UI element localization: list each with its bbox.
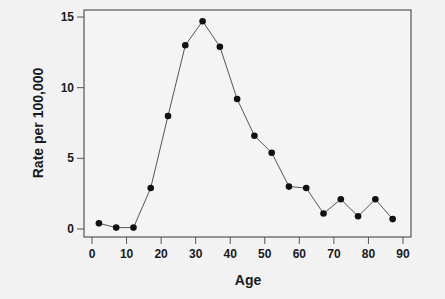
data-point-marker <box>199 18 206 25</box>
y-tick-label: 10 <box>61 81 75 95</box>
y-tick-label: 15 <box>61 10 75 24</box>
data-point-marker <box>320 210 327 217</box>
data-point-marker <box>338 196 345 203</box>
plot-area-frame <box>84 10 411 237</box>
data-point-marker <box>251 132 258 139</box>
x-tick-label: 10 <box>120 247 134 261</box>
data-point-marker <box>182 42 189 49</box>
data-point-marker <box>303 185 310 192</box>
x-tick-label: 40 <box>224 247 238 261</box>
y-axis-title: Rate per 100,000 <box>30 68 46 179</box>
data-point-marker <box>130 224 137 231</box>
data-point-marker <box>355 213 362 220</box>
data-point-marker <box>147 185 154 192</box>
data-point-marker <box>268 149 275 156</box>
data-point-marker <box>234 96 241 103</box>
data-point-marker <box>96 220 103 227</box>
x-tick-label: 90 <box>396 247 410 261</box>
line-chart: 051015 0102030405060708090 Age Rate per … <box>0 0 445 299</box>
y-tick-label: 0 <box>67 222 74 236</box>
data-point-marker <box>217 43 224 50</box>
x-tick-label: 80 <box>362 247 376 261</box>
x-tick-label: 60 <box>293 247 307 261</box>
x-axis-title: Age <box>235 272 262 288</box>
x-tick-label: 20 <box>154 247 168 261</box>
data-point-marker <box>113 224 120 231</box>
data-point-marker <box>286 183 293 190</box>
data-point-marker <box>165 113 172 120</box>
x-tick-label: 70 <box>327 247 341 261</box>
data-point-marker <box>389 216 396 223</box>
data-point-marker <box>372 196 379 203</box>
y-tick-label: 5 <box>67 151 74 165</box>
x-tick-label: 30 <box>189 247 203 261</box>
x-tick-label: 50 <box>258 247 272 261</box>
x-tick-label: 0 <box>89 247 96 261</box>
